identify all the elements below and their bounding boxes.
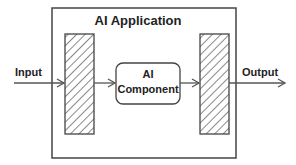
- input-label: Input: [15, 66, 42, 78]
- output-label: Output: [242, 66, 278, 78]
- ai-component-label-line1: AI: [143, 68, 154, 80]
- ai-component-label-line2: Component: [117, 83, 178, 95]
- input-interface-block: [65, 34, 94, 134]
- output-interface-block: [200, 34, 229, 134]
- ai-application-diagram: AI Application AI Component Input Output: [0, 0, 296, 165]
- application-title: AI Application: [95, 13, 182, 28]
